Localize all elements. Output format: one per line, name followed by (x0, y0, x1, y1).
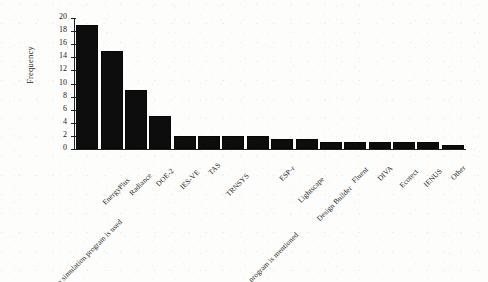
y-tick-label: 20 (59, 12, 67, 21)
bar[interactable] (149, 116, 171, 149)
bar[interactable] (271, 139, 293, 149)
x-axis-label: ESP-r (292, 152, 311, 171)
y-tick-label: 2 (63, 130, 67, 139)
y-tick-label: 14 (59, 51, 67, 60)
bar[interactable] (296, 139, 318, 149)
bar[interactable] (222, 136, 244, 149)
bar-slot (148, 18, 172, 149)
y-axis-title: Frequency (25, 15, 35, 115)
x-axis-label: Lightscape (320, 152, 349, 181)
bar[interactable] (247, 136, 269, 149)
bar[interactable] (101, 51, 123, 149)
bar-slot (99, 18, 123, 149)
bar[interactable] (442, 145, 464, 149)
bar-slot (75, 18, 99, 149)
bar-slot (197, 18, 221, 149)
x-axis-label: TAS (217, 152, 232, 167)
bar[interactable] (125, 90, 147, 149)
bar-slot (343, 18, 367, 149)
y-tick-label: 0 (63, 143, 67, 152)
bar[interactable] (369, 142, 391, 149)
bar-chart-figure: Frequency 02468101214161820 No simulatio… (0, 0, 488, 282)
x-axis-line (74, 149, 466, 150)
bar-slot (294, 18, 318, 149)
y-tick-label: 18 (59, 25, 67, 34)
bar-slot (124, 18, 148, 149)
bar[interactable] (417, 142, 439, 149)
x-axis-labels: No simulation program is usedEnergyPlusR… (75, 152, 465, 272)
bar-slot (392, 18, 416, 149)
x-axis-label: Other (462, 152, 480, 170)
bar[interactable] (320, 142, 342, 149)
bar[interactable] (393, 142, 415, 149)
bar-slot (368, 18, 392, 149)
bar-slot (416, 18, 440, 149)
bar-slot (319, 18, 343, 149)
bar[interactable] (76, 25, 98, 149)
y-tick-label: 6 (63, 104, 67, 113)
bar[interactable] (344, 142, 366, 149)
plot-area (75, 18, 465, 149)
y-tick-label: 10 (59, 78, 67, 87)
x-axis-label: DIVA (389, 152, 407, 170)
bar[interactable] (174, 136, 196, 149)
bar[interactable] (198, 136, 220, 149)
bar-slot (221, 18, 245, 149)
y-tick-label: 12 (59, 64, 67, 73)
y-tick-label: 4 (63, 117, 67, 126)
x-axis-label: TRNSYS (246, 152, 272, 178)
y-tick-label: 8 (63, 91, 67, 100)
bar-slot (246, 18, 270, 149)
bar-slot (270, 18, 294, 149)
bar-slot (173, 18, 197, 149)
x-axis-label: DOE-2 (171, 152, 192, 173)
bar-slot (441, 18, 465, 149)
y-tick-label: 16 (59, 38, 67, 47)
